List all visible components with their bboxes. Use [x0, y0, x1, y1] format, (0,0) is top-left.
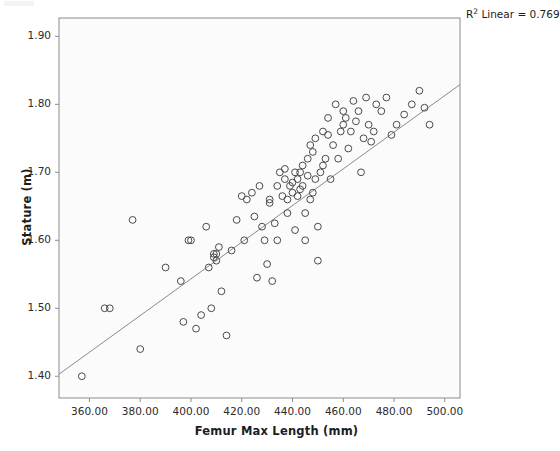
r-squared-annotation: R2 Linear = 0.769 — [466, 8, 560, 20]
y-axis-title: Stature (m) — [20, 127, 34, 287]
r-squared-suffix: Linear = 0.769 — [478, 8, 560, 20]
y-tick-label: 1.50 — [0, 301, 51, 313]
y-tick-label: 1.80 — [0, 97, 51, 109]
x-tick-label: 500.00 — [415, 405, 475, 417]
y-tick-label: 1.90 — [0, 29, 51, 41]
x-axis-title: Femur Max Length (mm) — [0, 424, 553, 438]
plot-background — [59, 18, 460, 398]
y-tick-label: 1.40 — [0, 369, 51, 381]
